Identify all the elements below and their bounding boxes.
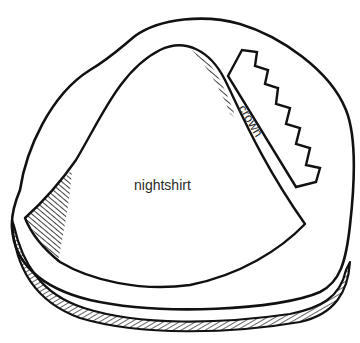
nightshirt-label: nightshirt — [134, 177, 191, 193]
diagram-canvas: nightshirt crown — [0, 0, 360, 343]
illustration-svg — [0, 0, 360, 343]
